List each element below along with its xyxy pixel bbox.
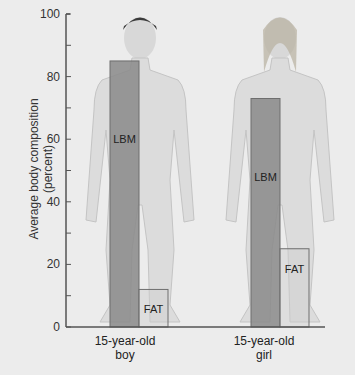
boy-figure-body bbox=[86, 58, 194, 322]
bar-label-fat-boy: FAT bbox=[139, 303, 168, 315]
y-tick-label-80: 80 bbox=[36, 70, 60, 84]
bar-lbm-boy bbox=[110, 61, 139, 327]
category-label-girl-line1: 15-year-old bbox=[219, 334, 309, 348]
bar-label-lbm-boy: LBM bbox=[110, 133, 139, 145]
y-tick-label-100: 100 bbox=[36, 7, 60, 21]
y-tick-label-20: 20 bbox=[36, 257, 60, 271]
y-tick-label-40: 40 bbox=[36, 195, 60, 209]
y-axis-label-line1: Average body composition bbox=[27, 84, 41, 254]
bar-lbm-girl bbox=[251, 99, 280, 327]
body-composition-chart: Average body composition (percent) 02040… bbox=[0, 0, 355, 375]
bar-label-lbm-girl: LBM bbox=[251, 171, 280, 183]
category-label-girl: 15-year-old girl bbox=[219, 334, 309, 362]
y-tick-label-60: 60 bbox=[36, 132, 60, 146]
boy-figure-head bbox=[124, 17, 156, 59]
category-label-boy: 15-year-old boy bbox=[80, 334, 170, 362]
category-label-girl-line2: girl bbox=[219, 348, 309, 362]
category-label-boy-line1: 15-year-old bbox=[80, 334, 170, 348]
y-axis-label-line2: (percent) bbox=[41, 84, 55, 254]
bar-fat-girl bbox=[280, 249, 309, 327]
category-label-boy-line2: boy bbox=[80, 348, 170, 362]
bar-label-fat-girl: FAT bbox=[280, 263, 309, 275]
y-tick-label-0: 0 bbox=[36, 320, 60, 334]
y-axis-label: Average body composition (percent) bbox=[27, 84, 55, 254]
